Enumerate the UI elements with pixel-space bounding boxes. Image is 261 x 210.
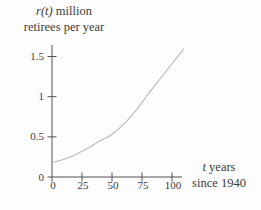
y-tick-label: 1 xyxy=(39,90,45,102)
y-tick-label: 1.5 xyxy=(30,50,44,62)
y-axis-title: r(t) million retirees per year xyxy=(14,4,114,35)
y-axis-title-line1: r(t) million xyxy=(14,4,114,20)
x-axis-title-line1: t years xyxy=(186,160,252,176)
retirees-line-chart: 00.511.50255075100 r(t) million retirees… xyxy=(0,0,261,210)
x-axis-title: t years since 1940 xyxy=(186,160,252,191)
x-tick-label: 75 xyxy=(138,179,150,191)
y-tick-label: 0 xyxy=(39,171,45,183)
data-curve xyxy=(52,48,184,162)
y-tick-label: 0.5 xyxy=(30,130,44,142)
y-axis-variable: r(t) xyxy=(36,4,53,18)
x-axis-title-line2: since 1940 xyxy=(186,176,252,192)
x-tick-label: 0 xyxy=(50,179,56,191)
x-tick-label: 50 xyxy=(108,179,120,191)
x-tick-label: 100 xyxy=(165,179,182,191)
y-axis-title-rest: million xyxy=(53,4,92,18)
x-axis-title-rest: years xyxy=(206,160,236,174)
x-tick-label: 25 xyxy=(78,179,90,191)
y-axis-title-line2: retirees per year xyxy=(14,20,114,36)
